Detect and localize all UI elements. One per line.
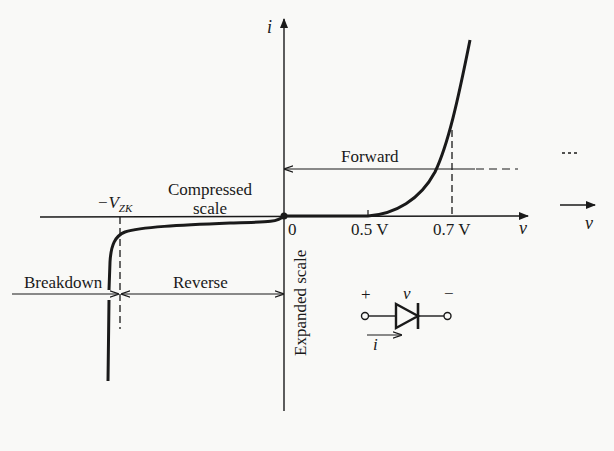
zener-subscript: ZK — [119, 202, 132, 214]
diode-current-label: i — [373, 336, 378, 353]
x-axis-label-outside: v — [585, 214, 593, 232]
reverse-label: Reverse — [173, 274, 228, 291]
forward-label: Forward — [341, 148, 399, 165]
diode-plus-label: + — [361, 286, 371, 303]
zener-voltage-label: −VZK — [97, 194, 132, 214]
forward-curve — [284, 40, 470, 216]
cathode-terminal — [444, 313, 451, 320]
y-axis-label: i — [267, 18, 272, 36]
tick-label-0-5v: 0.5 V — [351, 221, 388, 238]
reverse-breakdown-curve — [108, 216, 284, 381]
anode-terminal — [362, 313, 369, 320]
compressed-scale-note: Compressed scale — [165, 181, 255, 217]
x-axis-label: v — [519, 219, 527, 237]
diode-triangle — [396, 304, 418, 328]
diode-symbol — [362, 303, 452, 335]
diode-voltage-label: v — [403, 285, 411, 302]
diode-characteristic-figure: i v v 0 0.5 V 0.7 V Forward Reverse Brea… — [0, 0, 614, 451]
breakdown-label: Breakdown — [24, 274, 102, 291]
origin-label: 0 — [288, 221, 297, 238]
zener-prefix: −V — [97, 193, 119, 212]
compressed-line-2: scale — [165, 200, 255, 217]
diode-minus-label: − — [444, 285, 454, 302]
compressed-line-1: Compressed — [165, 181, 255, 198]
tick-label-0-7v: 0.7 V — [433, 221, 470, 238]
expanded-scale-note: Expanded scale — [292, 250, 309, 356]
